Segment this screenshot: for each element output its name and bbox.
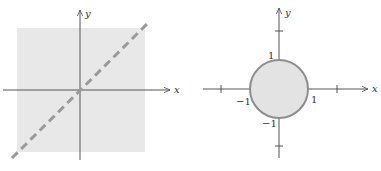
y-axis-label: y [84, 8, 91, 19]
tick-label-x-neg: −1 [236, 96, 251, 107]
tick-label-y-neg: −1 [262, 118, 277, 129]
unit-disk [250, 60, 308, 118]
x-axis-label: x [174, 84, 180, 95]
left-panel: x y [3, 8, 180, 160]
right-panel: 1 1 −1 −1 x y [203, 7, 378, 158]
tick-label-y-pos: 1 [268, 50, 274, 61]
x-axis-label: x [372, 83, 378, 94]
diagram-canvas: x y 1 1 −1 −1 x y [0, 0, 381, 171]
tick-label-x-pos: 1 [311, 94, 317, 105]
y-axis-label: y [284, 7, 291, 18]
